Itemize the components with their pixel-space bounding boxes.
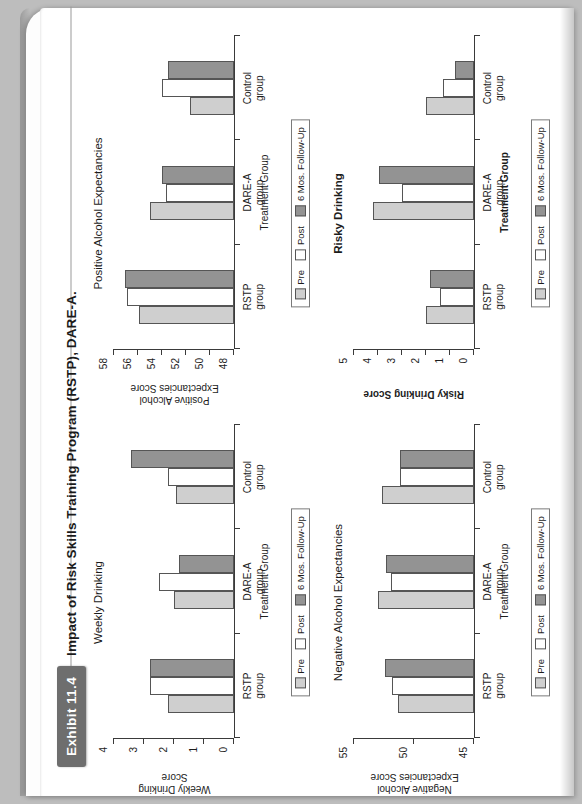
x-tick bbox=[474, 633, 480, 634]
legend-swatch-icon bbox=[535, 594, 546, 605]
x-axis-line bbox=[234, 425, 235, 738]
bar bbox=[373, 202, 474, 220]
legend-label: 6 Mos. Follow-Up bbox=[295, 516, 306, 590]
bar bbox=[402, 184, 474, 202]
y-tick-label: 1 bbox=[188, 747, 199, 753]
y-tick bbox=[413, 738, 414, 744]
x-tick bbox=[234, 528, 240, 529]
x-axis-line bbox=[234, 36, 235, 349]
x-tick bbox=[474, 35, 480, 36]
y-tick bbox=[449, 349, 450, 355]
legend-label: Pre bbox=[535, 659, 546, 674]
bar bbox=[398, 695, 474, 713]
y-tick bbox=[173, 738, 174, 744]
chart-legend: PrePost6 Mos. Follow-Up bbox=[291, 119, 310, 308]
x-axis-title: Treatment Group bbox=[259, 425, 270, 738]
y-tick-label: 4 bbox=[98, 747, 109, 753]
legend-label: 6 Mos. Follow-Up bbox=[295, 127, 306, 201]
legend-swatch-icon bbox=[295, 678, 306, 689]
y-tick-label: 1 bbox=[434, 358, 445, 364]
bar-group bbox=[354, 541, 474, 622]
x-axis-line bbox=[474, 36, 475, 349]
bar bbox=[379, 166, 474, 184]
chart-grid: Weekly DrinkingWeekly DrinkingScore01234… bbox=[90, 22, 566, 794]
chart-title: Negative Alcohol Expectancies bbox=[332, 411, 344, 794]
bar bbox=[139, 306, 234, 324]
y-tick-label: 56 bbox=[122, 358, 133, 369]
legend-swatch-icon bbox=[295, 205, 306, 216]
bar bbox=[168, 695, 234, 713]
exhibit-title: Impact of Risk Skills Training Program (… bbox=[64, 291, 79, 656]
y-tick-label: 55 bbox=[338, 747, 349, 758]
y-tick bbox=[137, 349, 138, 355]
legend-label: Pre bbox=[535, 270, 546, 285]
bar bbox=[426, 97, 474, 115]
legend-item: Pre bbox=[295, 659, 306, 689]
scanned-page-sheet: Exhibit 11.4 Impact of Risk Skills Train… bbox=[26, 8, 574, 796]
bars-container bbox=[114, 36, 234, 349]
y-axis-line bbox=[114, 738, 234, 739]
bar bbox=[455, 61, 474, 79]
legend-item: 6 Mos. Follow-Up bbox=[535, 516, 546, 605]
y-tick bbox=[473, 738, 474, 744]
y-tick bbox=[143, 738, 144, 744]
bar bbox=[150, 659, 234, 677]
bar-group bbox=[354, 48, 474, 129]
bar bbox=[426, 306, 474, 324]
y-tick-label: 48 bbox=[218, 358, 229, 369]
bars-container bbox=[354, 36, 474, 349]
bar bbox=[162, 79, 234, 97]
page-background: Exhibit 11.4 Impact of Risk Skills Train… bbox=[0, 0, 582, 804]
legend-label: 6 Mos. Follow-Up bbox=[535, 516, 546, 590]
y-tick bbox=[185, 349, 186, 355]
x-tick bbox=[234, 139, 240, 140]
chart-legend: PrePost6 Mos. Follow-Up bbox=[531, 508, 550, 697]
y-tick bbox=[377, 349, 378, 355]
y-tick-label: 45 bbox=[458, 747, 469, 758]
bar bbox=[382, 486, 474, 504]
legend-item: 6 Mos. Follow-Up bbox=[535, 127, 546, 216]
x-tick bbox=[234, 35, 240, 36]
bar bbox=[392, 677, 474, 695]
x-tick bbox=[474, 139, 480, 140]
legend-item: Pre bbox=[295, 270, 306, 300]
bar bbox=[127, 288, 234, 306]
legend-label: Post bbox=[295, 615, 306, 634]
legend-swatch-icon bbox=[295, 594, 306, 605]
legend-label: Pre bbox=[295, 270, 306, 285]
bar bbox=[385, 659, 474, 677]
bar bbox=[166, 184, 234, 202]
x-tick bbox=[234, 244, 240, 245]
exhibit-number-badge: Exhibit 11.4 bbox=[57, 666, 86, 767]
chart-legend: PrePost6 Mos. Follow-Up bbox=[291, 508, 310, 697]
x-axis-title: Treatment Group bbox=[259, 36, 270, 349]
plot-area: 012345RSTPgroupDARE-AgroupControlgroup bbox=[354, 36, 474, 349]
chart-legend: PrePost6 Mos. Follow-Up bbox=[531, 119, 550, 308]
bar bbox=[391, 573, 474, 591]
bar bbox=[150, 202, 234, 220]
legend-swatch-icon bbox=[535, 638, 546, 649]
bar-group bbox=[114, 152, 234, 233]
legend-item: Post bbox=[535, 226, 546, 260]
y-tick bbox=[209, 349, 210, 355]
y-tick bbox=[353, 349, 354, 355]
bar bbox=[443, 79, 474, 97]
plot-area: 485052545658RSTPgroupDARE-AgroupControlg… bbox=[114, 36, 234, 349]
bar-group bbox=[354, 152, 474, 233]
bar-group bbox=[114, 645, 234, 726]
figure-area: Weekly DrinkingWeekly DrinkingScore01234… bbox=[90, 22, 566, 794]
chart-panel-weekly-drinking: Weekly DrinkingWeekly DrinkingScore01234… bbox=[90, 411, 326, 794]
legend-label: Post bbox=[535, 615, 546, 634]
y-tick-label: 0 bbox=[458, 358, 469, 364]
y-tick-label: 50 bbox=[398, 747, 409, 758]
chart-title: Risky Drinking bbox=[332, 22, 344, 405]
x-tick bbox=[234, 737, 240, 738]
y-axis-title: Risky Drinking Score bbox=[354, 387, 474, 403]
bar bbox=[400, 468, 474, 486]
y-tick bbox=[233, 738, 234, 744]
y-tick-label: 5 bbox=[338, 358, 349, 364]
page-content-area: Exhibit 11.4 Impact of Risk Skills Train… bbox=[40, 8, 574, 796]
bar bbox=[131, 450, 235, 468]
bar bbox=[400, 450, 474, 468]
bars-container bbox=[354, 425, 474, 738]
